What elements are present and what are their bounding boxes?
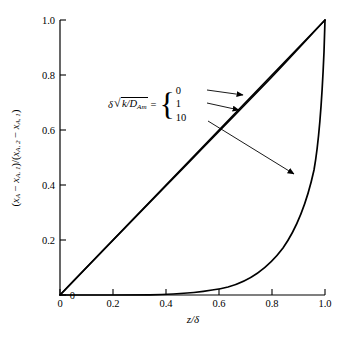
legend-delta-symbol: δ: [108, 99, 113, 110]
arrow-to-series-1: [207, 103, 239, 110]
legend: δk/DAm= { 0 1 10: [108, 84, 186, 124]
chart-figure: 0 0.2 0.4 0.6 0.8 1.0 0 0.2 0.4 0.6 0.8 …: [0, 0, 352, 338]
y-label-minus1: −: [10, 183, 21, 194]
y-label-close-paren: ): [10, 110, 21, 114]
plot-canvas: [0, 0, 352, 338]
y-axis-title: (xA − xA, 1)/(xA, 2 − xA, 1): [10, 110, 23, 207]
y-label-x2: x: [10, 178, 21, 183]
legend-expression: δk/DAm=: [108, 97, 160, 111]
y-tick-label-5: 1.0: [35, 15, 55, 26]
y-label-minus2: −: [10, 129, 21, 140]
legend-value-2: 10: [176, 111, 187, 124]
x-tick-label-2: 0.4: [159, 298, 172, 309]
y-label-x4-sub: A, 1: [14, 113, 22, 124]
x-tick-label-3: 0.6: [212, 298, 225, 309]
legend-D: D: [129, 98, 137, 109]
legend-D-sub: Am: [137, 103, 147, 111]
legend-value-1: 1: [176, 97, 187, 110]
y-tick-label-0: 0: [55, 290, 75, 301]
y-tick-label-1: 0.2: [35, 235, 55, 246]
x-axis-title-delta: δ: [194, 313, 199, 325]
x-tick-label-4: 0.8: [265, 298, 278, 309]
arrow-to-series-10: [208, 121, 294, 174]
y-label-x2-sub: A, 1: [14, 167, 22, 178]
legend-equals: =: [151, 99, 157, 110]
x-tick-label-1: 0.2: [106, 298, 119, 309]
y-label-x3: x: [10, 152, 21, 157]
y-label-x1-sub: A: [14, 194, 22, 198]
legend-value-0: 0: [176, 84, 187, 97]
legend-radicand: k/DAm: [121, 97, 148, 111]
y-label-x3-sub: A, 2: [14, 140, 22, 151]
y-label-open-paren: (: [10, 203, 21, 207]
y-axis-ticks: [60, 20, 66, 295]
x-axis-title: z/δ: [187, 313, 199, 325]
y-label-close-open: )/(: [10, 157, 21, 167]
arrow-to-series-0: [207, 90, 243, 95]
y-tick-label-2: 0.4: [35, 180, 55, 191]
legend-values: 0 1 10: [176, 84, 187, 124]
y-tick-label-3: 0.6: [35, 125, 55, 136]
x-tick-label-5: 1.0: [318, 298, 331, 309]
y-label-x4: x: [10, 125, 21, 130]
legend-sqrt-icon: k/DAm: [114, 97, 148, 111]
legend-brace: {: [160, 93, 175, 116]
y-label-x1: x: [10, 198, 21, 203]
annotation-arrows: [207, 90, 294, 174]
y-tick-label-4: 0.8: [35, 70, 55, 81]
